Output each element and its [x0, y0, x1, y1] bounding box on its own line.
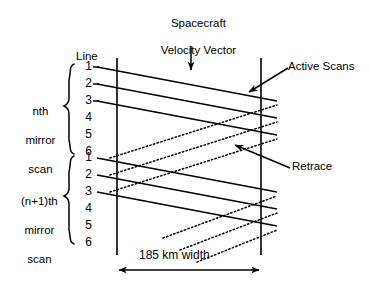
brace-group-1 — [64, 64, 74, 154]
group-label-n-plus-1th-mirror-scan: (n+1)th mirror scan — [2, 180, 64, 281]
line-number: 6 — [78, 236, 92, 250]
active-scan-line — [97, 175, 277, 209]
retrace-line — [110, 105, 277, 158]
line-number: 4 — [78, 202, 92, 216]
swath-boundary-lines — [117, 58, 261, 255]
page-title-line-2: Velocity Vector — [161, 44, 236, 56]
retrace-leader — [235, 145, 290, 168]
group-label-line-2: mirror — [25, 134, 55, 146]
line-number: 3 — [78, 185, 92, 199]
active-scans-leader — [249, 68, 288, 92]
retrace-line — [110, 122, 277, 175]
group-label-line-2: mirror — [24, 224, 54, 236]
page-title-line-1: Spacecraft — [171, 17, 226, 29]
line-number: 4 — [78, 111, 92, 125]
brace-group-2 — [64, 156, 74, 244]
group-label-line-3: scan — [27, 253, 51, 265]
line-number: 3 — [78, 94, 92, 108]
group-label-line-3: scan — [28, 163, 52, 175]
retrace-lines-group-1 — [110, 105, 277, 192]
retrace-line — [180, 213, 277, 250]
page-title: Spacecraft Velocity Vector — [140, 4, 244, 70]
line-number: 5 — [78, 219, 92, 233]
line-number: 2 — [78, 77, 92, 91]
line-number-ticks — [93, 67, 99, 101]
line-number: 5 — [78, 128, 92, 142]
line-number: 1 — [78, 60, 92, 74]
width-label: 185 km width — [139, 249, 210, 263]
retrace-line — [163, 196, 277, 238]
active-scan-line — [97, 192, 277, 226]
active-scan-line — [97, 101, 277, 135]
callout-retrace: Retrace — [292, 160, 332, 173]
active-scan-line — [97, 84, 277, 118]
active-scan-lines-group-1 — [97, 67, 277, 135]
scan-pattern-diagram: Spacecraft Velocity Vector Line 1 2 3 4 … — [0, 0, 369, 287]
active-scan-line — [97, 67, 277, 101]
group-label-line-1: nth — [32, 105, 48, 117]
line-number: 2 — [78, 168, 92, 182]
group-label-line-1: (n+1)th — [21, 195, 58, 207]
group-label-nth-mirror-scan: nth mirror scan — [6, 90, 62, 191]
callout-active-scans: Active Scans — [288, 60, 354, 73]
line-number: 1 — [78, 151, 92, 165]
